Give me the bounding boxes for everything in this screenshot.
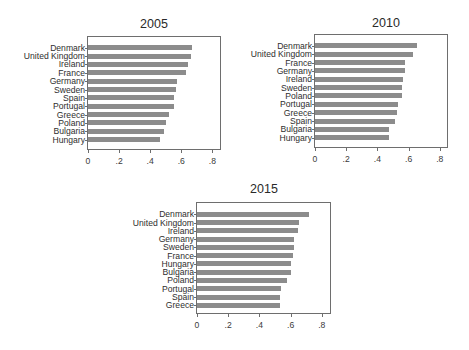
x-tick-mark bbox=[291, 314, 292, 317]
bar-hungary bbox=[197, 261, 291, 266]
x-tick-label: .6 bbox=[178, 156, 185, 166]
y-tick-mark bbox=[85, 106, 87, 107]
x-tick-label: .4 bbox=[256, 320, 263, 330]
category-label: Greece bbox=[166, 301, 194, 310]
x-tick-mark bbox=[322, 314, 323, 317]
bar-greece bbox=[315, 110, 397, 115]
x-tick-label: 0 bbox=[313, 154, 318, 164]
bar-hungary bbox=[88, 137, 160, 142]
chart-title: 2005 bbox=[140, 17, 168, 31]
y-tick-mark bbox=[85, 56, 87, 57]
y-tick-mark bbox=[85, 123, 87, 124]
bar-france bbox=[315, 60, 405, 65]
x-tick-mark bbox=[315, 148, 316, 151]
y-tick-mark bbox=[85, 48, 87, 49]
y-tick-mark bbox=[85, 140, 87, 141]
bar-germany bbox=[197, 237, 294, 242]
bar-poland bbox=[88, 120, 166, 125]
y-tick-mark bbox=[194, 289, 196, 290]
x-tick-mark bbox=[440, 148, 441, 151]
x-tick-mark bbox=[181, 150, 182, 153]
bar-sweden bbox=[88, 87, 176, 92]
category-label: Hungary bbox=[53, 135, 85, 144]
bar-sweden bbox=[315, 85, 402, 90]
y-tick-mark bbox=[194, 223, 196, 224]
x-tick-label: .4 bbox=[374, 154, 381, 164]
bar-spain bbox=[88, 95, 174, 100]
x-tick-label: .6 bbox=[287, 320, 294, 330]
bar-greece bbox=[197, 303, 280, 308]
bar-bulgaria bbox=[315, 127, 389, 132]
x-tick-label: .8 bbox=[436, 154, 443, 164]
bar-denmark bbox=[197, 212, 309, 217]
x-tick-mark bbox=[119, 150, 120, 153]
y-tick-mark bbox=[85, 131, 87, 132]
y-tick-mark bbox=[194, 231, 196, 232]
x-tick-mark bbox=[197, 314, 198, 317]
x-tick-mark bbox=[259, 314, 260, 317]
x-tick-mark bbox=[377, 148, 378, 151]
y-tick-mark bbox=[312, 113, 314, 114]
bar-ireland bbox=[88, 62, 188, 67]
y-tick-mark bbox=[312, 46, 314, 47]
chart-title: 2010 bbox=[372, 16, 400, 30]
y-tick-mark bbox=[312, 88, 314, 89]
y-tick-mark bbox=[312, 96, 314, 97]
bar-hungary bbox=[315, 135, 389, 140]
bar-portugal bbox=[197, 286, 281, 291]
x-tick-label: .2 bbox=[343, 154, 350, 164]
y-tick-mark bbox=[194, 264, 196, 265]
bar-bulgaria bbox=[88, 129, 164, 134]
y-tick-mark bbox=[312, 63, 314, 64]
y-tick-mark bbox=[194, 305, 196, 306]
bar-france bbox=[88, 70, 186, 75]
bar-denmark bbox=[315, 43, 417, 48]
y-tick-mark bbox=[85, 115, 87, 116]
bar-ireland bbox=[197, 228, 298, 233]
y-tick-mark bbox=[85, 81, 87, 82]
category-label: Hungary bbox=[280, 133, 312, 142]
x-tick-label: .4 bbox=[147, 156, 154, 166]
bar-spain bbox=[197, 295, 280, 300]
x-tick-label: .8 bbox=[318, 320, 325, 330]
x-tick-label: .2 bbox=[225, 320, 232, 330]
bar-spain bbox=[315, 119, 395, 124]
bar-united-kingdom bbox=[88, 54, 191, 59]
y-tick-mark bbox=[85, 73, 87, 74]
y-tick-mark bbox=[312, 54, 314, 55]
y-tick-mark bbox=[194, 214, 196, 215]
bar-poland bbox=[197, 278, 287, 283]
bar-sweden bbox=[197, 245, 294, 250]
y-tick-mark bbox=[194, 272, 196, 273]
x-tick-mark bbox=[228, 314, 229, 317]
y-tick-mark bbox=[194, 247, 196, 248]
bar-france bbox=[197, 253, 293, 258]
y-tick-mark bbox=[312, 104, 314, 105]
bar-germany bbox=[88, 79, 177, 84]
bar-united-kingdom bbox=[315, 52, 413, 57]
y-tick-mark bbox=[194, 239, 196, 240]
y-tick-mark bbox=[312, 79, 314, 80]
x-tick-mark bbox=[150, 150, 151, 153]
x-tick-label: .8 bbox=[209, 156, 216, 166]
x-tick-mark bbox=[409, 148, 410, 151]
y-tick-mark bbox=[312, 138, 314, 139]
y-tick-mark bbox=[312, 121, 314, 122]
x-tick-label: 0 bbox=[86, 156, 91, 166]
x-tick-label: .6 bbox=[405, 154, 412, 164]
y-tick-mark bbox=[194, 297, 196, 298]
bar-united-kingdom bbox=[197, 220, 299, 225]
bar-ireland bbox=[315, 77, 403, 82]
y-tick-mark bbox=[312, 71, 314, 72]
bar-bulgaria bbox=[197, 270, 291, 275]
y-tick-mark bbox=[194, 256, 196, 257]
y-tick-mark bbox=[85, 90, 87, 91]
x-tick-mark bbox=[88, 150, 89, 153]
x-tick-mark bbox=[346, 148, 347, 151]
x-tick-label: 0 bbox=[195, 320, 200, 330]
x-tick-mark bbox=[212, 150, 213, 153]
y-tick-mark bbox=[312, 129, 314, 130]
x-tick-label: .2 bbox=[116, 156, 123, 166]
bar-poland bbox=[315, 93, 402, 98]
bar-portugal bbox=[315, 102, 398, 107]
